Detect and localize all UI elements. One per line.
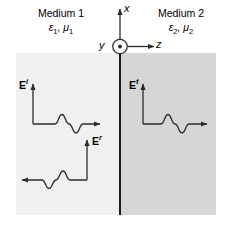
medium-2-parameters: ε2, μ2 xyxy=(140,21,222,37)
medium-1-epsilon: ε1 xyxy=(49,21,58,33)
incident-field-label: Ei xyxy=(19,78,28,91)
medium-2-mu: μ2 xyxy=(183,21,193,33)
axis-y-circle-dot-icon xyxy=(113,39,127,53)
medium-1-mu: μ1 xyxy=(63,21,73,33)
region-medium-1 xyxy=(16,53,120,215)
axis-label-y: y xyxy=(99,39,105,52)
axis-label-z: z xyxy=(156,38,162,51)
physics-diagram: Medium 1 ε1, μ1 Medium 2 ε2, μ2 x y z Ei… xyxy=(0,0,230,228)
medium-1-title: Medium 1 xyxy=(20,7,102,19)
axis-label-x: x xyxy=(124,2,130,15)
medium-2-epsilon: ε2 xyxy=(169,21,178,33)
transmitted-field-label: Et xyxy=(129,78,139,91)
reflected-field-label: Er xyxy=(92,134,102,147)
medium-2-title: Medium 2 xyxy=(140,7,222,19)
medium-1-parameters: ε1, μ1 xyxy=(20,21,102,37)
interface-boundary-line xyxy=(119,53,121,215)
